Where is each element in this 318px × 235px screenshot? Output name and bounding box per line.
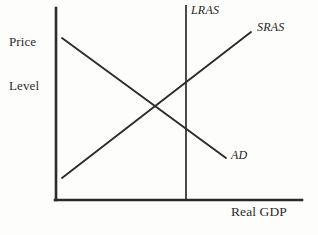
y-axis-label-line2: Level bbox=[9, 79, 39, 94]
lras-curve-label: LRAS bbox=[191, 4, 219, 17]
y-axis-label: Price Level bbox=[9, 6, 39, 122]
diagram-canvas bbox=[0, 0, 318, 235]
ad-as-diagram: Price Level Real GDP LRAS SRAS AD bbox=[0, 0, 318, 235]
x-axis-label: Real GDP bbox=[231, 205, 287, 220]
y-axis-label-line1: Price bbox=[9, 35, 39, 50]
sras-curve-label: SRAS bbox=[257, 21, 284, 34]
ad-curve-label: AD bbox=[231, 149, 247, 162]
ad-curve bbox=[62, 38, 226, 158]
